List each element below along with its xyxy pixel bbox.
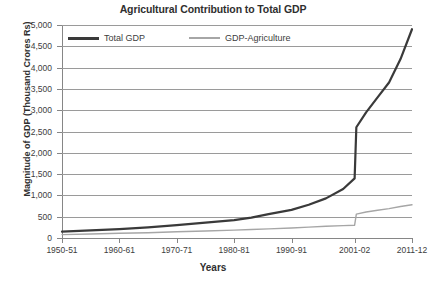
y-tick-label: 5,000	[4, 21, 52, 30]
legend-swatch-total-gdp-icon	[68, 37, 99, 40]
series-lines	[62, 25, 412, 238]
x-axis-title: Years	[0, 262, 426, 273]
plot-area	[62, 25, 412, 238]
x-tick-mark	[177, 239, 178, 243]
legend-item-total-gdp: Total GDP	[68, 33, 145, 43]
x-tick-mark	[119, 239, 120, 243]
x-tick-mark	[355, 239, 356, 243]
x-tick-mark	[234, 239, 235, 243]
y-tick-label: 3,000	[4, 106, 52, 115]
chart-title: Agricultural Contribution to Total GDP	[0, 3, 426, 15]
y-tick-label: 500	[4, 213, 52, 222]
legend-label-total-gdp: Total GDP	[104, 33, 145, 43]
y-tick-label: 0	[4, 234, 52, 243]
x-tick-label: 1960-61	[89, 246, 149, 255]
x-tick-mark	[62, 239, 63, 243]
y-tick-label: 4,000	[4, 64, 52, 73]
y-tick-label: 2,000	[4, 149, 52, 158]
legend-item-gdp-agriculture: GDP-Agriculture	[189, 33, 291, 43]
series-line-total-gdp	[62, 29, 412, 231]
x-tick-label: 1990-91	[262, 246, 322, 255]
x-tick-label: 2011-12	[382, 246, 432, 255]
x-tick-label: 1950-51	[32, 246, 92, 255]
y-tick-label: 2,500	[4, 128, 52, 137]
y-tick-label: 3,500	[4, 85, 52, 94]
legend-swatch-gdp-agriculture-icon	[189, 37, 220, 39]
x-axis-line	[62, 238, 413, 239]
y-tick-label: 1,500	[4, 170, 52, 179]
chart-legend: Total GDP GDP-Agriculture	[68, 33, 291, 43]
y-tick-label: 1,000	[4, 191, 52, 200]
x-tick-mark	[412, 239, 413, 243]
legend-label-gdp-agriculture: GDP-Agriculture	[225, 33, 291, 43]
y-tick-label: 4,500	[4, 42, 52, 51]
x-tick-label: 1980-81	[204, 246, 264, 255]
x-tick-label: 1970-71	[147, 246, 207, 255]
x-tick-label: 2001-02	[325, 246, 385, 255]
x-tick-mark	[292, 239, 293, 243]
